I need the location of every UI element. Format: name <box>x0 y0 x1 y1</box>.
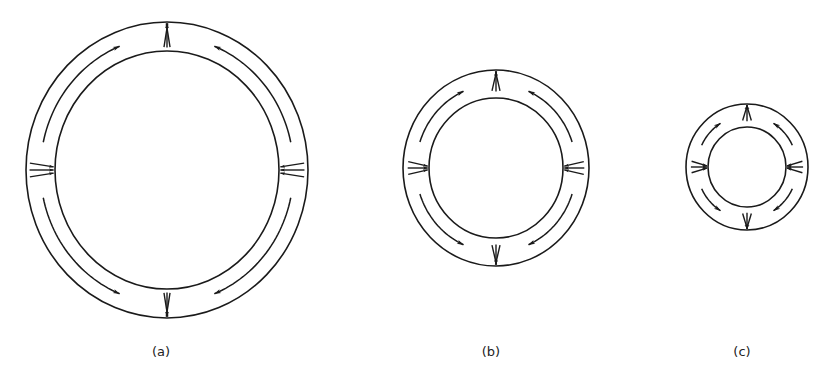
radial-inward-arrow-right <box>564 162 583 167</box>
flow-ring-diagram: (a) (b) (c) <box>0 0 825 380</box>
radial-inward-arrow-right <box>280 173 304 177</box>
radial-inward-arrow-right <box>787 168 802 173</box>
radial-inward-arrow-left <box>692 161 707 166</box>
flow-arc-arrow <box>529 91 573 142</box>
flow-arc-arrow <box>702 123 721 145</box>
inner-ring <box>429 98 563 238</box>
panel-c: (c) <box>686 104 808 359</box>
radial-inward-arrow-right <box>280 163 304 167</box>
outer-ring <box>26 22 308 318</box>
radial-inward-arrow-left <box>408 162 427 167</box>
radial-inward-arrow-right <box>787 161 802 166</box>
flow-arc-arrow <box>529 194 573 245</box>
flow-arc-arrow <box>774 189 793 211</box>
radial-inward-arrow-left <box>408 170 427 175</box>
radial-inward-arrow-left <box>692 168 707 173</box>
outer-ring <box>403 70 589 266</box>
flow-arc-arrow <box>420 91 464 142</box>
panel-a: (a) <box>26 22 308 359</box>
radial-inward-arrow-left <box>30 163 54 167</box>
flow-arc-arrow <box>774 123 793 145</box>
panel-label-b: (b) <box>482 344 500 359</box>
panel-label-a: (a) <box>152 344 170 359</box>
inner-ring <box>708 127 786 207</box>
inner-ring <box>55 51 279 289</box>
flow-arc-arrow <box>702 189 721 211</box>
radial-inward-arrow-left <box>30 173 54 177</box>
panel-label-c: (c) <box>733 344 750 359</box>
flow-arc-arrow <box>420 194 464 245</box>
panel-b: (b) <box>403 70 589 359</box>
radial-inward-arrow-right <box>564 170 583 175</box>
